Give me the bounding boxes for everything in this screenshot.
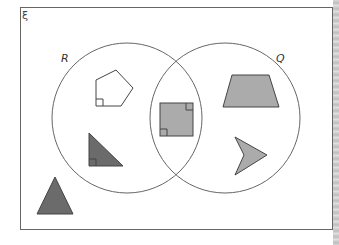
venn-diagram-svg <box>0 0 339 245</box>
pentagon-shape <box>96 70 133 106</box>
arrowhead-shape <box>235 137 267 175</box>
outside-triangle-shape <box>37 177 73 214</box>
set-r-label: R <box>61 52 69 65</box>
venn-diagram: ξ R Q <box>0 0 339 245</box>
universal-set-symbol: ξ <box>22 9 28 22</box>
page-edge-shadow <box>333 0 339 245</box>
trapezium-shape <box>223 75 279 107</box>
square-shape <box>160 103 193 136</box>
set-q-label: Q <box>276 52 285 65</box>
right-triangle-shape <box>89 133 123 166</box>
